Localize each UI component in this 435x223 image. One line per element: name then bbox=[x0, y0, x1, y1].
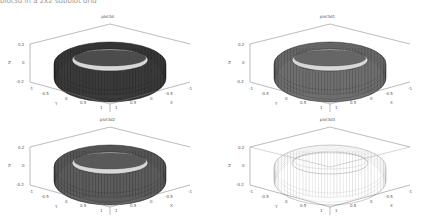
y-tick: 1 bbox=[320, 105, 323, 110]
subplot-title: plot3d3 bbox=[220, 117, 435, 122]
x-tick: -1 bbox=[408, 86, 412, 91]
subplot-title: plot3d2 bbox=[0, 117, 215, 122]
x-tick: 0.5 bbox=[130, 100, 136, 105]
x-axis-label: X bbox=[390, 203, 393, 208]
x-tick: 0 bbox=[370, 96, 373, 101]
x-tick: -0.5 bbox=[385, 194, 393, 199]
y-axis-label: Y bbox=[275, 204, 277, 209]
y-tick: 0.5 bbox=[80, 203, 86, 208]
subplot-title: plot3d bbox=[0, 14, 215, 19]
z-tick: 0.2 bbox=[238, 42, 244, 47]
y-tick: -1 bbox=[249, 86, 253, 91]
x-tick: -0.5 bbox=[165, 91, 173, 96]
z-tick: 0.2 bbox=[18, 145, 24, 150]
y-tick: -0.5 bbox=[41, 194, 49, 199]
x-tick: -1 bbox=[408, 189, 412, 194]
subplot-1: plot3d 0.2 0 -0.2 Z -1 -0.5 0 0.5 1 Y 1 … bbox=[0, 12, 215, 120]
y-tick: -0.5 bbox=[261, 91, 269, 96]
z-axis-label: Z bbox=[228, 60, 231, 65]
z-tick: 0 bbox=[242, 60, 245, 65]
cut-off-caption: plot3d in a 2x2 subplot grid bbox=[0, 0, 130, 3]
x-axis-label: X bbox=[170, 203, 173, 208]
z-axis-label: Z bbox=[8, 163, 11, 168]
z-tick: 0 bbox=[22, 60, 25, 65]
z-tick: -0.2 bbox=[16, 79, 24, 84]
z-tick: -0.2 bbox=[16, 182, 24, 187]
x-axis-label: X bbox=[390, 100, 393, 105]
y-tick: -0.5 bbox=[261, 194, 269, 199]
subplot-4: plot3d3 0.2 0 -0.2 Z -1 -0.5 0 0.5 1 Y 1… bbox=[220, 115, 435, 223]
x-tick: 0 bbox=[370, 199, 373, 204]
y-tick: -1 bbox=[29, 189, 33, 194]
z-tick: 0 bbox=[22, 163, 25, 168]
y-tick: 0.5 bbox=[300, 100, 306, 105]
x-tick: 0.5 bbox=[350, 203, 356, 208]
subplot-2: plot3d1 0.2 0 -0.2 Z -1 -0.5 0 0.5 1 Y 1… bbox=[220, 12, 435, 120]
z-tick: 0 bbox=[242, 163, 245, 168]
y-tick: 0 bbox=[65, 96, 68, 101]
z-tick: -0.2 bbox=[236, 182, 244, 187]
torus-surface-plot bbox=[220, 115, 435, 223]
x-tick: 0 bbox=[150, 199, 153, 204]
z-axis-label: Z bbox=[8, 60, 11, 65]
y-tick: -1 bbox=[249, 189, 253, 194]
y-tick: -0.5 bbox=[41, 91, 49, 96]
y-tick: -1 bbox=[29, 86, 33, 91]
z-tick: 0.2 bbox=[238, 145, 244, 150]
x-tick: -1 bbox=[188, 86, 192, 91]
z-axis-label: Z bbox=[228, 163, 231, 168]
y-tick: 0.5 bbox=[300, 203, 306, 208]
x-tick: 0.5 bbox=[350, 100, 356, 105]
subplot-title: plot3d1 bbox=[220, 14, 435, 19]
x-axis-label: X bbox=[170, 100, 173, 105]
z-tick: -0.2 bbox=[236, 79, 244, 84]
y-tick: 0 bbox=[285, 199, 288, 204]
x-tick: 0 bbox=[150, 96, 153, 101]
x-tick: -0.5 bbox=[165, 194, 173, 199]
y-axis-label: Y bbox=[55, 101, 57, 106]
x-tick: 1 bbox=[335, 105, 338, 110]
x-tick: -0.5 bbox=[385, 91, 393, 96]
y-tick: 1 bbox=[320, 208, 323, 213]
torus-surface-plot bbox=[0, 115, 215, 223]
x-tick: 1 bbox=[115, 105, 118, 110]
z-tick: 0.2 bbox=[18, 42, 24, 47]
torus-surface-plot bbox=[220, 12, 435, 120]
x-tick: 0.5 bbox=[130, 203, 136, 208]
torus-surface-plot bbox=[0, 12, 215, 120]
y-tick: 0 bbox=[285, 96, 288, 101]
y-tick: 0.5 bbox=[80, 100, 86, 105]
y-axis-label: Y bbox=[55, 204, 57, 209]
x-tick: 1 bbox=[335, 208, 338, 213]
x-tick: 1 bbox=[115, 208, 118, 213]
subplot-3: plot3d2 0.2 0 -0.2 Z -1 -0.5 0 0.5 1 Y 1… bbox=[0, 115, 215, 223]
y-axis-label: Y bbox=[275, 101, 277, 106]
y-tick: 0 bbox=[65, 199, 68, 204]
y-tick: 1 bbox=[100, 105, 103, 110]
x-tick: -1 bbox=[188, 189, 192, 194]
y-tick: 1 bbox=[100, 208, 103, 213]
